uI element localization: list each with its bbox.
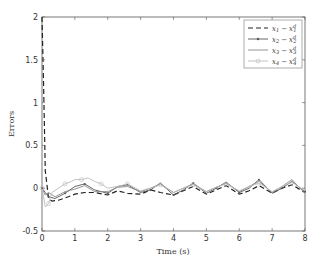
- x-tick-label: 8: [302, 234, 307, 243]
- y-tick-label: -0.5: [22, 227, 38, 236]
- legend-label: x1−xd1: [272, 23, 296, 33]
- y-tick-label: 1.5: [25, 56, 38, 65]
- x-tick-label: 4: [171, 234, 176, 243]
- x-tick-label: 3: [138, 234, 143, 243]
- y-tick-label: 1: [33, 99, 38, 108]
- errors-chart: 012345678-0.500.511.52 x1−xd1x2−xd2x3−xd…: [0, 0, 324, 264]
- y-tick-label: 0: [33, 184, 38, 193]
- x-tick-label: 5: [204, 234, 209, 243]
- y-tick-label: 2: [33, 13, 38, 22]
- y-tick-label: 0.5: [25, 141, 38, 150]
- x-tick-label: 6: [237, 234, 242, 243]
- legend-label: x2−xd2: [272, 34, 296, 44]
- legend-label: x4−xd4: [272, 56, 296, 66]
- x-tick-label: 0: [39, 234, 44, 243]
- x-tick-label: 2: [105, 234, 110, 243]
- y-axis-label: Errors: [7, 111, 16, 137]
- x-tick-label: 1: [72, 234, 77, 243]
- x-axis-label: Time (s): [156, 247, 189, 256]
- legend: x1−xd1x2−xd2x3−xd3x4−xd4: [244, 20, 302, 68]
- legend-label: x3−xd3: [272, 45, 296, 55]
- x-tick-label: 7: [270, 234, 275, 243]
